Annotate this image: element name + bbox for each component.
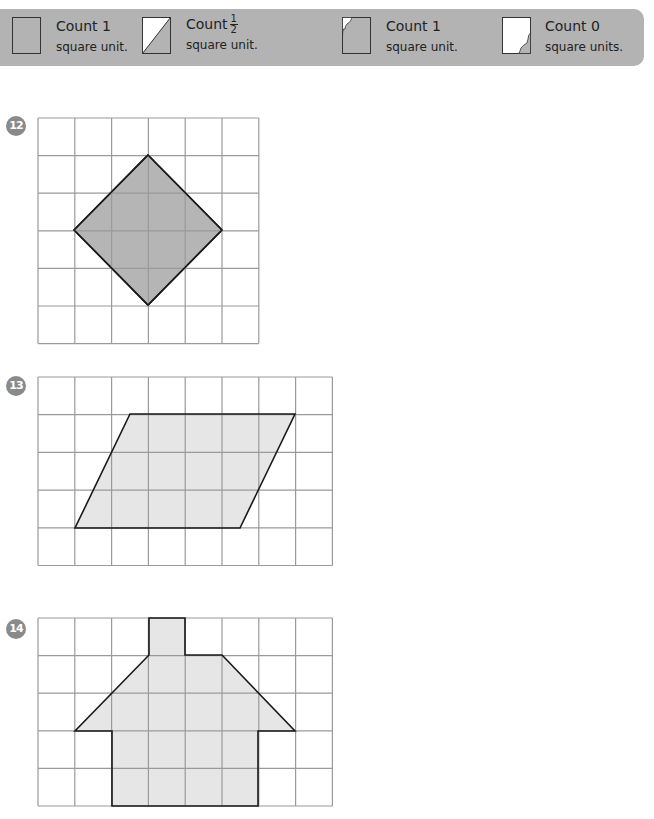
grid-problem-13 (37, 376, 335, 570)
grid-problem-14 (37, 617, 335, 811)
grid-problem-12 (37, 117, 261, 347)
half-square-icon (142, 17, 171, 54)
legend-unit-label: square unit. (386, 39, 458, 55)
legend-unit-label: square unit. (186, 37, 258, 53)
legend-item-full: Count 1 square unit. (0, 9, 160, 66)
grid-lines (38, 377, 332, 566)
legend-item-mostly: Count 1 square unit. (340, 9, 500, 66)
problem-number-badge: 12 (6, 116, 26, 136)
mostly-filled-square-icon (342, 17, 371, 54)
legend-count-label: Count 1 (56, 17, 128, 35)
legend-count-label: Count12 (186, 14, 258, 35)
legend-band: Count 1 square unit. Count12 square unit… (0, 9, 644, 66)
problem-number-badge: 14 (6, 619, 26, 639)
legend-unit-label: square unit. (56, 39, 128, 55)
small-sliver-square-icon (502, 17, 531, 54)
legend-count-label: Count 1 (386, 17, 458, 35)
legend-count-label: Count 0 (545, 17, 623, 35)
grid-lines (38, 118, 259, 344)
fraction-one-half: 12 (230, 14, 238, 35)
problem-number-badge: 13 (6, 376, 26, 396)
legend-unit-label: square units. (545, 39, 623, 55)
legend-item-half: Count12 square unit. (140, 9, 310, 66)
legend-item-sliver: Count 0 square units. (502, 9, 644, 66)
full-square-icon (12, 17, 41, 54)
